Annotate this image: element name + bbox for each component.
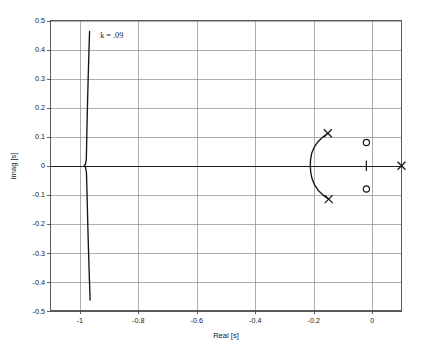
- y-tick-label: -0.3: [33, 249, 45, 258]
- x-tick-label: -1: [77, 316, 83, 325]
- y-tick-label: -0.4: [33, 278, 45, 287]
- root-locus-plot: -1-0.8-0.6-0.4-0.20 -0.5-0.4-0.3-0.2-0.1…: [0, 0, 422, 348]
- y-tick-label: 0.1: [35, 132, 45, 141]
- gain-annotation: k = .09: [100, 31, 123, 40]
- x-tick-label: -0.2: [308, 316, 320, 325]
- x-tick-label: -0.4: [249, 316, 261, 325]
- y-tick-label: 0.4: [35, 45, 45, 54]
- y-tick-label: -0.5: [33, 307, 45, 316]
- x-tick-label: -0.8: [132, 316, 144, 325]
- y-tick-label: 0: [41, 161, 45, 170]
- root-locus-figure: -1-0.8-0.6-0.4-0.20 -0.5-0.4-0.3-0.2-0.1…: [0, 0, 422, 348]
- x-tick-label: -0.6: [191, 316, 203, 325]
- x-tick-label: 0: [370, 316, 374, 325]
- y-tick-label: -0.1: [33, 190, 45, 199]
- y-tick-label: 0.3: [35, 74, 45, 83]
- plot-annotations: k = .09: [100, 31, 123, 40]
- y-axis-label: Imag [s]: [9, 152, 18, 179]
- x-axis-label: Real [s]: [213, 331, 239, 340]
- y-tick-label: 0.2: [35, 103, 45, 112]
- figure-background: [0, 0, 422, 348]
- y-tick-label: -0.2: [33, 219, 45, 228]
- y-tick-label: 0.5: [35, 16, 45, 25]
